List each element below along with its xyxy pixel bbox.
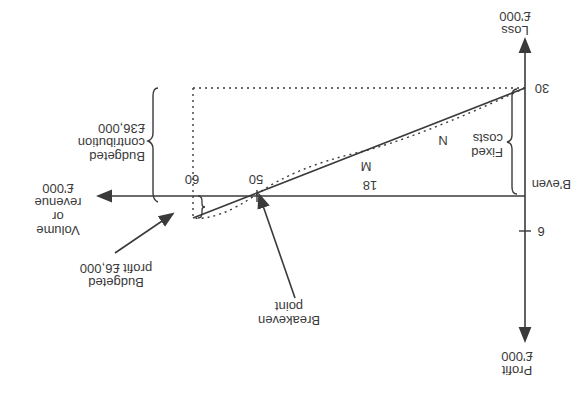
loss-axis-label: Loss £'000 xyxy=(490,9,540,37)
loss-label: Loss xyxy=(490,23,540,37)
fixed-label: Fixed xyxy=(471,145,503,159)
volume-label: Volume xyxy=(18,223,98,237)
profit-label: Profit xyxy=(492,363,542,377)
breakeven-point-label: Breakeven point xyxy=(254,299,324,327)
profit-unit-label: £'000 xyxy=(492,349,542,363)
profit-brace xyxy=(198,196,205,218)
contribution-budgeted-label: Budgeted xyxy=(78,149,145,163)
tick-label-6: 6 xyxy=(534,224,548,238)
revenue-label: revenue xyxy=(18,195,98,209)
breakeven-word-label: Breakeven xyxy=(254,313,324,327)
costs-label: costs xyxy=(471,131,503,145)
fixed-costs-label: Fixed costs xyxy=(471,131,503,159)
breakeven-arrow xyxy=(261,200,295,298)
budgeted-contribution-label: Budgeted contribution £36,000 xyxy=(78,121,145,163)
point-m-label: M xyxy=(359,159,373,173)
profit-value-label: profit £6,000 xyxy=(66,261,166,275)
revenue-unit-label: £'000 xyxy=(18,181,98,195)
point-word-label: point xyxy=(254,299,324,313)
volume-axis-label: Volume or revenue £'000 xyxy=(18,181,98,237)
tick-label-50: 50 xyxy=(246,172,266,186)
breakeven-origin-label: B'even xyxy=(532,177,571,191)
profit-axis-label: Profit £'000 xyxy=(492,349,542,377)
budgeted-profit-label: Budgeted profit £6,000 xyxy=(66,261,166,289)
profit-budgeted-label: Budgeted xyxy=(66,275,166,289)
label-18: 18 xyxy=(360,178,380,192)
contribution-value-label: £36,000 xyxy=(78,121,145,135)
contribution-word-label: contribution xyxy=(78,135,145,149)
point-n-label: N xyxy=(436,133,450,147)
tick-label-30: 30 xyxy=(532,81,552,95)
loss-unit-label: £'000 xyxy=(490,9,540,23)
tick-label-60: 60 xyxy=(182,172,202,186)
or-label: or xyxy=(18,209,98,223)
contribution-brace xyxy=(148,88,158,202)
budgeted-profit-arrow xyxy=(115,217,168,253)
fixed-costs-brace xyxy=(507,89,517,194)
breakeven-chart: Loss £'000 Profit £'000 Volume or revenu… xyxy=(0,0,586,401)
